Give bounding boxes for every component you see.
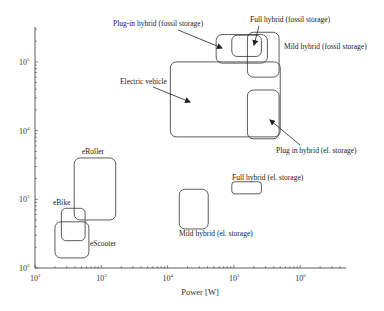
axes: 102103104105106 102103104105 (19, 27, 346, 283)
label-mild-hybrid-fossil: Mild hybrid (fossil storage) (284, 42, 367, 51)
label-plugin-hybrid-el: Plug in hybrid (el. storage) (276, 146, 357, 155)
label-mild-hybrid-el: Mild hybrid (el. storage) (179, 229, 253, 238)
region-box-eroller (74, 158, 116, 220)
label-plugin-hybrid-fossil: Plug-in hybrid (fossil storage) (113, 19, 204, 28)
x-tick-label: 105 (229, 273, 240, 283)
label-escooter: eScooter (90, 239, 117, 248)
region-labels: Plug-in hybrid (fossil storage) Full hyb… (53, 15, 367, 248)
label-ebike: eBike (53, 198, 71, 207)
chart: 102103104105106 102103104105 Power [W] P… (0, 0, 384, 311)
region-box-electric-vehicle (170, 62, 280, 137)
region-box-mild-hybrid-el-storage (179, 189, 208, 229)
y-tick-label: 102 (19, 263, 30, 273)
region-boxes (55, 32, 280, 258)
label-eroller: eRoller (82, 147, 105, 156)
y-tick-label: 104 (19, 126, 30, 136)
y-tick-label: 103 (19, 194, 30, 204)
x-axis-title: Power [W] (181, 287, 219, 297)
region-box-full-hybrid-el-storage (232, 182, 262, 194)
region-box-plug-in-hybrid-el-storage (247, 90, 279, 139)
region-box-plug-in-hybrid-fossil-storage (216, 35, 267, 64)
region-box-full-hybrid-fossil-storage (232, 35, 262, 56)
label-electric-vehicle: Electric vehicle (120, 77, 168, 86)
region-box-ebike (61, 208, 85, 240)
region-box-mild-hybrid-fossil-storage (247, 32, 279, 77)
arrow-electric-vehicle (153, 87, 190, 102)
label-full-hybrid-fossil: Full hybrid (fossil storage) (250, 15, 331, 24)
x-tick-label: 106 (295, 273, 306, 283)
annotation-arrows (153, 26, 300, 145)
x-tick-label: 102 (30, 273, 41, 283)
x-tick-label: 104 (163, 273, 174, 283)
y-tick-label: 105 (19, 57, 30, 67)
x-tick-label: 103 (96, 273, 107, 283)
arrow-plugin-hybrid-el (270, 120, 300, 145)
region-box-escooter (55, 222, 89, 258)
arrow-plugin-hybrid-fossil (178, 30, 222, 48)
label-full-hybrid-el: Full hybrid (el. storage) (232, 173, 304, 182)
